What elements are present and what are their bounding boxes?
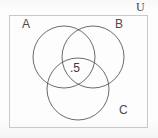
region-value-triple-intersection: .5 — [70, 62, 80, 74]
venn-diagram-figure: U A B C .5 — [0, 0, 158, 138]
set-label-c: C — [119, 104, 128, 116]
universe-label: U — [136, 1, 145, 13]
set-label-a: A — [22, 18, 30, 30]
set-label-b: B — [115, 18, 123, 30]
set-circle-a — [33, 26, 95, 88]
set-circle-b — [62, 26, 124, 88]
